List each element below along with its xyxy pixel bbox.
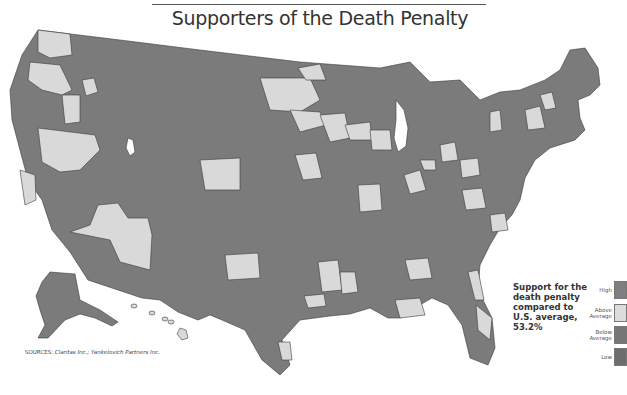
legend-item-high: High xyxy=(590,281,627,301)
us-choropleth-map xyxy=(0,0,627,395)
legend-item-low: Low xyxy=(590,348,627,368)
legend-swatch-high xyxy=(614,281,627,299)
legend-label: Below Average xyxy=(572,329,612,341)
legend-label: High xyxy=(572,287,612,293)
legend-swatch-below-average xyxy=(614,326,627,344)
sources-label: SOURCES: xyxy=(25,349,53,355)
legend-label: Low xyxy=(572,354,612,360)
sources-note: SOURCES: Claritas Inc.; Yankelovich Part… xyxy=(25,349,160,355)
legend-swatch-above-average xyxy=(614,304,627,322)
legend-swatch-low xyxy=(614,348,627,366)
legend-item-below-average: Below Average xyxy=(590,326,627,346)
legend-label: Above Average xyxy=(572,307,612,319)
legend-item-above-average: Above Average xyxy=(590,304,627,324)
sources-text: Claritas Inc.; Yankelovich Partners Inc. xyxy=(55,349,160,355)
